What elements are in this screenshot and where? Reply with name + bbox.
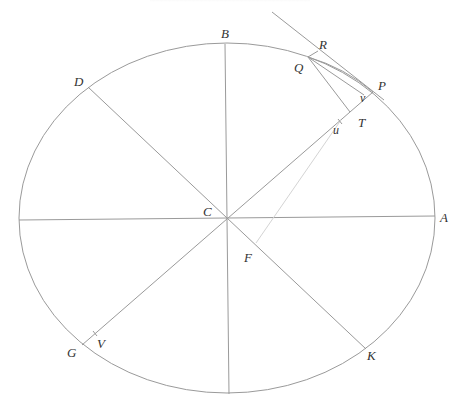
label-q: Q	[294, 60, 304, 75]
label-v-lower: v	[360, 91, 366, 105]
label-d: D	[73, 74, 84, 89]
label-f: F	[243, 250, 253, 265]
ellipse-diagram: A B C D F G K P Q R T V u v	[0, 0, 462, 409]
segment-fu	[256, 120, 341, 243]
label-a: A	[439, 210, 448, 225]
label-r: R	[318, 37, 327, 52]
segment-qr	[308, 51, 318, 57]
diameter-dk	[88, 87, 366, 349]
label-t: T	[358, 115, 366, 130]
label-p: P	[377, 78, 386, 93]
label-g: G	[67, 345, 77, 360]
label-v-upper: V	[97, 336, 107, 351]
label-u: u	[333, 123, 339, 137]
label-c: C	[203, 204, 212, 219]
chord-qp	[308, 57, 373, 92]
label-k: K	[366, 348, 377, 363]
label-b: B	[221, 26, 229, 41]
